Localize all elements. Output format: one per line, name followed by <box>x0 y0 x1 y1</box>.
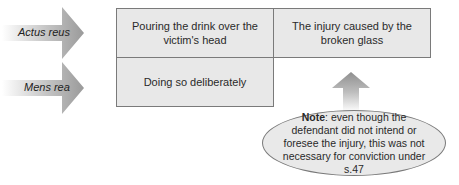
cell-text: The injury caused by the broken glass <box>280 19 424 47</box>
cell-text: Doing so deliberately <box>144 75 247 89</box>
mens-rea-cell: Doing so deliberately <box>116 57 274 107</box>
note-bold-label: Note <box>302 111 325 123</box>
arrow-up-icon <box>332 72 370 112</box>
actus-reus-cell-consequence: The injury caused by the broken glass <box>273 8 431 58</box>
actus-reus-cell-act: Pouring the drink over the victim's head <box>116 8 274 58</box>
mens-rea-label: Mens rea <box>24 81 70 93</box>
actus-reus-label: Actus reus <box>18 26 70 38</box>
note-text: Note: even though the defendant did not … <box>277 111 431 176</box>
cell-text: Pouring the drink over the victim's head <box>123 19 267 47</box>
note-ellipse: Note: even though the defendant did not … <box>262 110 446 176</box>
actus-reus-arrow: Actus reus <box>2 7 84 59</box>
note-up-arrow <box>332 72 370 112</box>
mens-rea-arrow: Mens rea <box>2 62 84 114</box>
